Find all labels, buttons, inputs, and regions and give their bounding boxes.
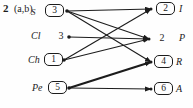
matching-diagram: 2 (a,b) S 3 Cl 3 Ch 1 Pe 5 2 I 2 P 4 R 6… [0,0,193,108]
right-node-label-p: P [179,33,185,43]
left-node-box-s: 3 [45,4,64,17]
right-node-label-a: A [176,84,182,94]
right-node-box-r: 4 [154,55,173,68]
edge-s-r [67,11,151,62]
endpoint-dot-a [150,88,153,91]
right-node-label-i: I [179,4,182,14]
endpoint-dot-i [150,8,153,11]
right-node-value-p: 2 [157,33,167,43]
left-node-label-cl: Cl [31,31,40,41]
left-node-label-s: S [31,8,36,17]
endpoint-dot-s [65,9,69,13]
question-number: 2 [3,3,9,14]
endpoint-dot-pe [67,86,71,90]
edge-pe-r [69,62,151,88]
question-label: (a,b) [14,4,33,14]
edge-pe-a [69,88,151,89]
right-node-label-r: R [176,57,182,67]
right-node-box-i: 2 [156,2,175,15]
endpoint-dot-p [148,38,151,41]
endpoint-dot-cl [67,35,71,39]
edge-ch-p [64,39,149,60]
left-node-box-ch: 1 [44,53,63,66]
edge-cl-p [69,37,149,39]
edge-s-i [67,9,151,11]
right-node-box-a: 6 [154,82,173,95]
endpoint-dot-r [150,61,153,64]
left-node-value-cl: 3 [56,31,66,41]
left-node-label-pe: Pe [32,83,43,93]
left-node-label-ch: Ch [28,55,40,65]
left-node-box-pe: 5 [48,81,67,94]
